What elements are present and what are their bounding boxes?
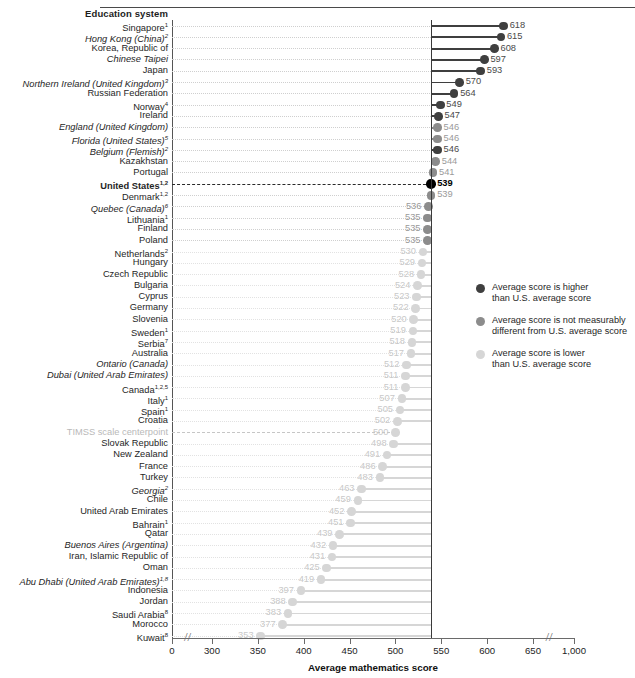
data-point-dot[interactable] (413, 281, 422, 290)
row-guide-line (172, 342, 412, 343)
data-point-dot[interactable] (389, 440, 398, 449)
row-label-morocco: Morocco (132, 619, 168, 630)
data-point-dot[interactable] (417, 270, 426, 279)
row-guide-line (172, 331, 413, 332)
data-point-value: 452 (329, 506, 345, 517)
data-point-value: 502 (375, 415, 391, 426)
chart-row: Singapore1618 (172, 20, 574, 31)
row-stem (351, 511, 431, 513)
data-point-dot[interactable] (497, 33, 506, 42)
data-point-dot[interactable] (383, 451, 392, 460)
row-guide-line (172, 285, 417, 286)
data-point-dot[interactable] (436, 101, 445, 110)
data-point-value: 546 (444, 144, 460, 155)
chart-row: Portugal541 (172, 167, 574, 178)
row-label-iran-islamic-republic-of: Iran, Islamic Republic of (69, 551, 168, 562)
data-point-dot[interactable] (401, 372, 410, 381)
chart-row: Qatar439 (172, 528, 574, 539)
data-point-dot[interactable] (346, 519, 355, 528)
chart-row: Indonesia397 (172, 585, 574, 596)
chart-row: Quebec (Canada)6536 (172, 201, 574, 212)
chart-row: Norway4549 (172, 99, 574, 110)
data-point-dot[interactable] (433, 146, 442, 155)
data-point-value: 486 (360, 461, 376, 472)
data-point-dot[interactable] (499, 22, 508, 31)
data-point-dot[interactable] (357, 485, 366, 494)
top-rule (100, 7, 635, 8)
data-point-dot[interactable] (322, 564, 331, 573)
row-guide-line (172, 477, 380, 478)
data-point-dot[interactable] (455, 78, 464, 87)
data-point-dot[interactable] (409, 315, 418, 324)
data-point-dot[interactable] (433, 135, 442, 144)
data-point-dot[interactable] (409, 327, 418, 336)
data-point-dot[interactable] (284, 609, 293, 618)
row-guide-line (172, 206, 428, 207)
data-point-value: 507 (379, 393, 395, 404)
row-guide-line (172, 195, 431, 196)
row-guide-line (172, 511, 351, 512)
data-point-value: 539 (437, 178, 453, 189)
data-point-dot[interactable] (411, 304, 420, 313)
data-point-value: 535 (405, 235, 421, 246)
data-point-dot[interactable] (429, 168, 438, 177)
x-tick-label: 600 (479, 645, 495, 656)
row-label-oman: Oman (143, 562, 168, 573)
data-point-value: 519 (390, 325, 406, 336)
chart-row: Netherlands2530 (172, 246, 574, 257)
data-point-dot[interactable] (393, 417, 402, 426)
data-point-dot[interactable] (297, 586, 306, 595)
row-guide-line (172, 240, 428, 241)
data-point-dot[interactable] (476, 67, 485, 76)
data-point-value: 535 (405, 212, 421, 223)
row-stem (383, 466, 432, 468)
data-point-dot[interactable] (402, 361, 411, 370)
data-point-dot[interactable] (376, 473, 385, 482)
row-stem (431, 59, 484, 61)
data-point-dot[interactable] (317, 575, 326, 584)
row-label-poland: Poland (139, 235, 168, 246)
row-stem (332, 556, 431, 558)
data-point-dot[interactable] (401, 383, 410, 392)
data-point-dot[interactable] (288, 598, 297, 607)
data-point-dot[interactable] (398, 394, 407, 403)
data-point-dot[interactable] (490, 44, 499, 53)
data-point-dot[interactable] (431, 157, 440, 166)
row-guide-line (172, 557, 332, 558)
x-tick-label: 650 (525, 645, 541, 656)
data-point-dot[interactable] (396, 406, 405, 415)
data-point-dot[interactable] (407, 349, 416, 358)
data-point-dot[interactable] (329, 541, 338, 550)
data-point-dot[interactable] (434, 112, 443, 121)
row-label-france: France (139, 461, 168, 472)
data-point-dot[interactable] (412, 293, 421, 302)
chart-row: Morocco377 (172, 619, 574, 630)
data-point-dot[interactable] (408, 338, 417, 347)
data-point-dot[interactable] (378, 462, 387, 471)
data-point-dot[interactable] (450, 89, 459, 98)
data-point-dot[interactable] (347, 507, 356, 516)
data-point-value: 505 (378, 404, 394, 415)
row-guide-line (172, 274, 421, 275)
row-guide-line (172, 263, 422, 264)
axis-break-mark: // (546, 630, 553, 643)
row-label-slovenia: Slovenia (132, 314, 168, 325)
data-point-dot[interactable] (433, 123, 442, 132)
x-tick-label: 300 (204, 645, 220, 656)
row-stem (402, 398, 431, 400)
data-point-value: 536 (406, 201, 422, 212)
data-point-value: 383 (266, 607, 282, 618)
data-point-dot[interactable] (418, 259, 427, 268)
row-label-new-zealand: New Zealand (113, 449, 168, 460)
row-guide-line (172, 139, 438, 140)
data-point-dot[interactable] (480, 55, 489, 64)
data-point-dot[interactable] (278, 620, 287, 629)
data-point-dot[interactable] (419, 248, 428, 257)
data-point-dot[interactable] (354, 496, 363, 505)
row-label-cyprus: Cyprus (139, 291, 168, 302)
chart-row: Buenos Aires (Argentina)432 (172, 540, 574, 551)
row-label-indonesia: Indonesia (128, 585, 168, 596)
data-point-dot[interactable] (335, 530, 344, 539)
data-point-dot[interactable] (328, 553, 337, 562)
row-stem (397, 420, 431, 422)
